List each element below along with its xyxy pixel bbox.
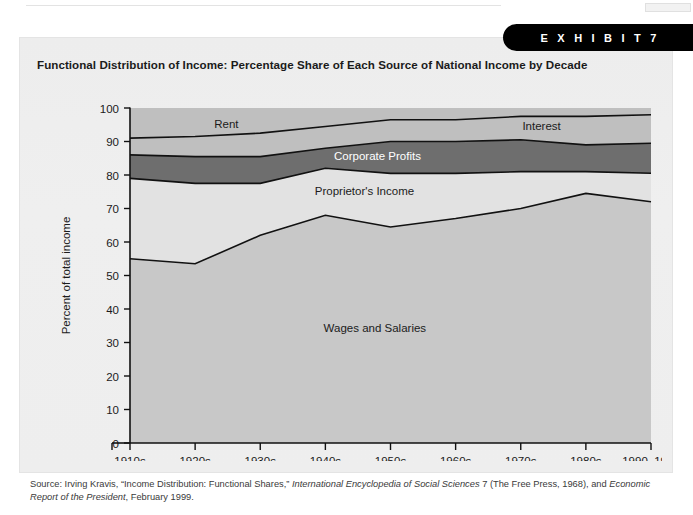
x-tick-label: 1960s — [440, 455, 472, 461]
chart-y-axis-title: Percent of total income — [60, 217, 72, 335]
y-tick-label: 80 — [106, 170, 119, 182]
source-italic-encyclopedia: International Encyclopedia of Social Sci… — [292, 479, 480, 489]
x-tick-label: 1910s — [114, 455, 146, 461]
chart-plot-area: 0102030405060708090100 1910s1920s1930s19… — [30, 86, 662, 461]
source-note: Source: Irving Kravis, “Income Distribut… — [30, 478, 670, 504]
x-tick-label: 1970s — [505, 455, 537, 461]
y-tick-label: 50 — [106, 270, 119, 282]
series-label-corporate: Corporate Profits — [334, 150, 421, 162]
y-axis-title-text: Percent of total income — [60, 217, 72, 335]
x-tick-label: 1980s — [570, 455, 602, 461]
chart-y-tick-labels: 0102030405060708090100 — [100, 103, 130, 450]
page-top-rule — [26, 5, 501, 6]
y-tick-label: 40 — [106, 304, 119, 316]
x-tick-label: 1950s — [375, 455, 407, 461]
y-tick-label: 70 — [106, 203, 119, 215]
series-label-interest: Interest — [522, 120, 561, 132]
y-tick-label: 10 — [106, 404, 119, 416]
exhibit-number-banner: E X H I B I T 7 — [503, 24, 693, 51]
source-middle: 7 (The Free Press, 1968), and — [480, 479, 610, 489]
stacked-area-chart: 0102030405060708090100 1910s1920s1930s19… — [30, 86, 662, 461]
y-tick-label: 60 — [106, 237, 119, 249]
exhibit-number-label: E X H I B I T 7 — [537, 32, 660, 44]
x-tick-label: 1940s — [310, 455, 342, 461]
page-top-right-box — [645, 3, 691, 12]
source-prefix: Source: Irving Kravis, “Income Distribut… — [30, 479, 292, 489]
y-tick-label: 30 — [106, 337, 119, 349]
x-tick-label: 1920s — [179, 455, 211, 461]
x-tick-label: 1990–1998 — [622, 455, 662, 461]
y-tick-label: 90 — [106, 136, 119, 148]
series-label-wages: Wages and Salaries — [324, 322, 427, 334]
y-tick-label: 100 — [100, 103, 119, 115]
series-label-proprietor: Proprietor's Income — [315, 185, 414, 197]
source-suffix: , February 1999. — [126, 492, 194, 502]
series-label-rent: Rent — [214, 118, 239, 130]
chart-x-tick-labels: 1910s1920s1930s1940s1950s1960s1970s1980s… — [112, 443, 662, 461]
chart-title: Functional Distribution of Income: Perce… — [37, 58, 587, 71]
x-tick-label: 1930s — [245, 455, 277, 461]
y-tick-label: 20 — [106, 371, 119, 383]
